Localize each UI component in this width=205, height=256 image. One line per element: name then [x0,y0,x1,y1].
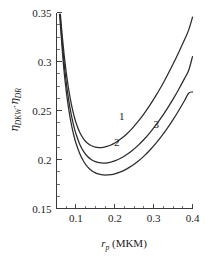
y-tick-label: 0.3 [38,56,52,68]
chart-figure: 0.10.20.30.40.150.20.250.30.35 123 rp (M… [0,0,205,256]
y-tick-label: 0.2 [38,154,52,166]
curve-label-2: 2 [114,136,120,148]
curve-2 [60,14,193,163]
curve-label-3: 3 [154,118,160,130]
curve-1 [60,14,192,147]
svg-text:ηDKW·ηDR: ηDKW·ηDR [8,88,23,132]
curve-annotations: 123 [114,110,160,148]
x-tick-label: 0.2 [108,212,122,224]
x-tick-label: 0.4 [186,212,200,224]
tick-labels: 0.10.20.30.40.150.20.250.30.35 [32,7,200,224]
y-tick-label: 0.25 [32,105,52,117]
line-chart: 0.10.20.30.40.150.20.250.30.35 123 rp (M… [0,0,205,256]
curve-3 [60,14,193,175]
x-tick-label: 0.1 [69,212,83,224]
y-axis-title: ηDKW·ηDR [8,88,23,132]
svg-text:rp (MKM): rp (MKM) [101,237,147,252]
y-tick-label: 0.15 [32,203,52,215]
y-tick-label: 0.35 [32,7,52,19]
curve-label-1: 1 [119,110,125,122]
data-curves [60,14,193,175]
x-tick-label: 0.3 [147,212,161,224]
x-axis-title: rp (MKM) [101,237,147,252]
